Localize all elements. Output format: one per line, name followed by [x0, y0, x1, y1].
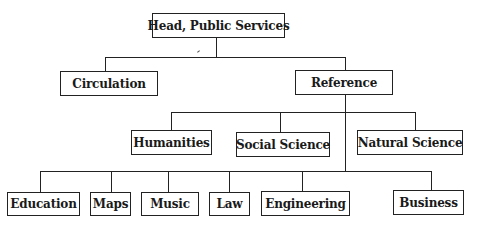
- connector-to-maps: [111, 171, 112, 192]
- connector-to-humanities: [171, 112, 172, 130]
- connector-to-business: [431, 171, 432, 192]
- node-law: Law: [209, 192, 250, 216]
- node-social-science: Social Science: [236, 132, 330, 157]
- connector-to-education: [40, 171, 41, 192]
- connector-head-down: [216, 38, 217, 57]
- stray-mark: [197, 50, 200, 53]
- node-circulation: Circulation: [60, 71, 158, 96]
- connector-to-music: [168, 171, 169, 192]
- node-engineering: Engineering: [261, 191, 350, 216]
- node-music: Music: [141, 192, 199, 216]
- node-reference: Reference: [295, 70, 393, 95]
- connector-branches-bar: [40, 171, 432, 172]
- node-education: Education: [7, 192, 80, 216]
- connector-to-circulation: [105, 57, 106, 71]
- connector-to-reference: [345, 57, 346, 70]
- connector-to-law: [229, 171, 230, 192]
- node-humanities: Humanities: [131, 130, 212, 155]
- connector-to-social-science: [280, 112, 281, 132]
- connector-to-natural-science: [415, 112, 416, 130]
- node-natural-science: Natural Science: [357, 130, 463, 155]
- node-maps: Maps: [90, 192, 131, 216]
- connector-reference-down: [345, 95, 346, 172]
- node-business: Business: [393, 190, 464, 215]
- connector-subjects-bar: [171, 112, 416, 113]
- connector-level1-bar: [105, 57, 346, 58]
- connector-to-engineering: [302, 171, 303, 192]
- node-head-public-services: Head, Public Services: [152, 13, 285, 38]
